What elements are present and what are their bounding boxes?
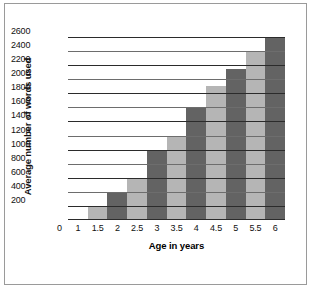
gridline: 800 <box>68 164 285 165</box>
y-tick-label: 2200 <box>10 54 65 64</box>
x-tick-origin: 0 <box>57 223 62 233</box>
gridline: 200 <box>68 206 285 207</box>
x-axis-line <box>68 219 285 220</box>
gridline: 1200 <box>68 136 285 137</box>
bar[interactable] <box>88 206 108 220</box>
y-tick-label: 1400 <box>10 110 65 120</box>
x-tick-label: 4 <box>186 223 206 237</box>
bar[interactable] <box>147 150 167 220</box>
plot-area: 2004006008001000120014001600180020002200… <box>68 30 285 220</box>
x-tick-label: 5 <box>226 223 246 237</box>
gridline: 600 <box>68 178 285 179</box>
x-axis-title: Age in years <box>68 240 285 251</box>
x-tick-label: 6 <box>265 223 285 237</box>
x-tick-label: 4.5 <box>206 223 226 237</box>
gridline: 2600 <box>68 37 285 38</box>
gridline: 400 <box>68 192 285 193</box>
chart-frame: Average number of words used 20040060080… <box>4 3 307 285</box>
gridline: 1800 <box>68 93 285 94</box>
bar[interactable] <box>206 86 226 220</box>
bar[interactable] <box>127 178 147 220</box>
chart-figure: Average number of words used 20040060080… <box>0 0 312 290</box>
y-tick-label: 400 <box>10 181 65 191</box>
x-axis-ticks: 11.522.533.544.555.56 <box>68 223 285 237</box>
x-tick-label: 2.5 <box>127 223 147 237</box>
gridline: 1400 <box>68 121 285 122</box>
y-tick-label: 2600 <box>10 26 65 36</box>
x-tick-label: 3.5 <box>167 223 187 237</box>
x-tick-label: 3 <box>147 223 167 237</box>
y-tick-label: 1000 <box>10 139 65 149</box>
x-tick-label: 2 <box>107 223 127 237</box>
x-tick-label: 1.5 <box>88 223 108 237</box>
y-tick-label: 2400 <box>10 40 65 50</box>
gridline: 2400 <box>68 51 285 52</box>
y-tick-label: 1600 <box>10 96 65 106</box>
y-tick-label: 1200 <box>10 125 65 135</box>
x-tick-label: 5.5 <box>246 223 266 237</box>
gridline: 2200 <box>68 65 285 66</box>
bar[interactable] <box>226 69 246 220</box>
gridline: 1000 <box>68 150 285 151</box>
gridline: 2000 <box>68 79 285 80</box>
y-tick-label: 600 <box>10 167 65 177</box>
y-tick-label: 2000 <box>10 68 65 78</box>
y-tick-label: 1800 <box>10 82 65 92</box>
y-tick-label: 200 <box>10 195 65 205</box>
gridline: 1600 <box>68 107 285 108</box>
y-tick-label: 800 <box>10 153 65 163</box>
x-tick-label: 1 <box>68 223 88 237</box>
